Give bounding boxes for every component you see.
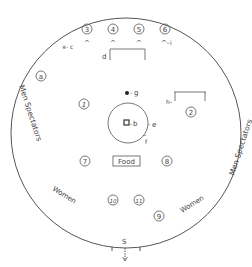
svg-text:9: 9: [157, 213, 161, 221]
marker-i: i: [170, 39, 172, 46]
svg-text:^: ^: [110, 39, 116, 47]
position-9: 9: [154, 211, 164, 221]
food-box: Food: [113, 156, 140, 166]
men-spectators-right: Men Spectators: [227, 118, 252, 177]
svg-text:b: b: [133, 120, 138, 128]
svg-text:5: 5: [137, 26, 141, 34]
central-circle: - b - e ‾ f: [108, 103, 156, 145]
center-b-icon: [124, 120, 129, 125]
svg-text:6: 6: [163, 26, 168, 34]
svg-text:3: 3: [85, 26, 89, 34]
position-a: a: [36, 71, 46, 81]
svg-text:e: e: [152, 121, 156, 129]
marker-s-label: S: [122, 238, 127, 246]
svg-text:^: ^: [136, 39, 142, 47]
svg-text:d: d: [102, 53, 106, 61]
svg-text:c: c: [70, 43, 73, 50]
svg-text:-: -: [148, 120, 150, 127]
men-spectators-left: Men Spectators: [17, 84, 44, 143]
position-1: 1: [79, 99, 89, 109]
svg-text:1: 1: [82, 101, 86, 109]
svg-text:f: f: [145, 138, 148, 145]
position-6: 6 ^- i: [160, 24, 172, 47]
svg-text:7: 7: [83, 158, 87, 166]
marker-c: ※- c: [62, 43, 73, 50]
svg-text:Food: Food: [118, 158, 135, 166]
marker-g: - g: [125, 89, 138, 97]
bar-d: d: [102, 49, 145, 61]
svg-text:g: g: [134, 89, 138, 97]
svg-text:※-: ※-: [62, 44, 68, 50]
svg-text:a: a: [39, 73, 43, 81]
svg-text:4: 4: [111, 26, 116, 34]
svg-text:8: 8: [165, 158, 169, 166]
position-5: 5 ^: [134, 24, 144, 47]
position-3: 3 ^: [82, 24, 92, 47]
svg-text:11: 11: [136, 198, 143, 204]
position-11: 11: [134, 195, 144, 205]
position-2: 2: [186, 107, 196, 117]
women-right: Women: [179, 194, 206, 215]
svg-text:-: -: [130, 89, 132, 96]
women-left: Women: [51, 185, 78, 206]
svg-text:-: -: [170, 98, 172, 105]
svg-text:^-: ^-: [161, 39, 170, 47]
position-10: 10: [108, 195, 118, 205]
svg-text:^: ^: [84, 39, 90, 47]
svg-text:10: 10: [110, 198, 117, 204]
svg-text:-: -: [130, 120, 132, 127]
position-8: 8: [162, 156, 172, 166]
position-7: 7: [80, 156, 90, 166]
svg-text:2: 2: [189, 109, 193, 117]
bar-h: h -: [166, 92, 206, 105]
position-4: 4 ^: [108, 24, 118, 47]
outer-boundary-circle: [11, 18, 241, 248]
ceremony-layout-diagram: S 3 ^ 4 ^ 5 ^ 6 ^- i ※- c d a Men Spec: [0, 0, 252, 267]
